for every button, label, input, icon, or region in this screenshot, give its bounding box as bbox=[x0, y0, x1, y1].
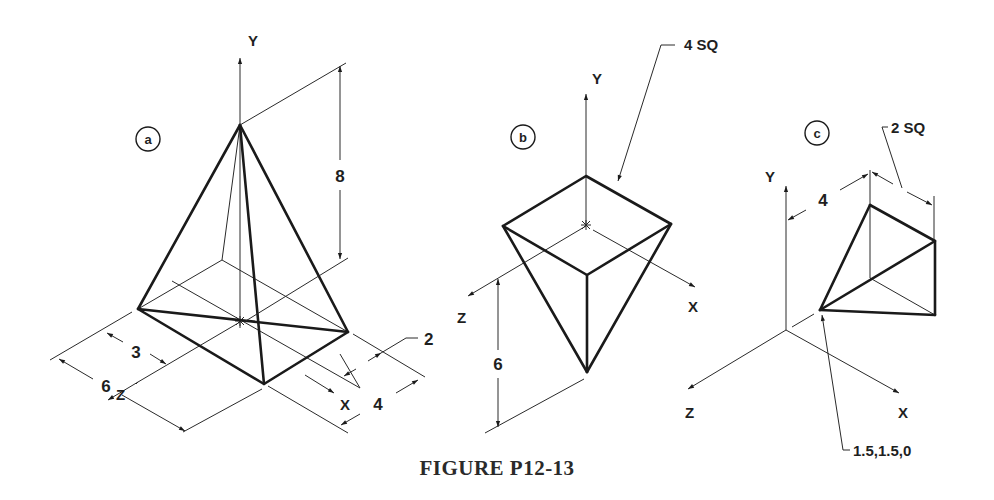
extension-line-bottom bbox=[244, 258, 348, 322]
view-b-label-badge: b bbox=[511, 125, 535, 149]
x-axis-label: X bbox=[688, 298, 698, 315]
view-c-label-badge: c bbox=[805, 121, 829, 145]
extension-line-bottom bbox=[485, 379, 584, 433]
pyramid-edge-bottom bbox=[820, 310, 935, 315]
view-a-label-badge: a bbox=[136, 127, 160, 151]
extension-line-z-front bbox=[183, 389, 262, 432]
x-axis-label: X bbox=[340, 396, 350, 413]
extension-line-z-left bbox=[50, 312, 132, 360]
base-note: 2 SQ bbox=[891, 119, 926, 136]
base-note: 4 SQ bbox=[684, 36, 719, 53]
leader-line-base-note bbox=[618, 45, 675, 181]
view-c: c Y Z X 4 2 SQ 1.5,1.5,0 bbox=[685, 119, 935, 459]
figure-canvas: a Y Z X 8 bbox=[0, 0, 994, 500]
x-axis-label: X bbox=[898, 404, 908, 421]
z-axis-line bbox=[468, 226, 586, 296]
y-axis-label: Y bbox=[765, 168, 775, 185]
z-axis-line bbox=[136, 322, 240, 384]
y-axis-label: Y bbox=[592, 70, 602, 87]
view-a: a Y Z X 8 bbox=[50, 32, 433, 433]
leader-line-base-note bbox=[882, 127, 902, 188]
extension-line-top bbox=[240, 63, 346, 125]
hidden-edge-back bbox=[222, 125, 240, 260]
y-axis-label: Y bbox=[248, 32, 258, 49]
dimension-offset: 4 bbox=[818, 191, 828, 210]
x-axis-line bbox=[786, 330, 899, 393]
z-axis-line bbox=[688, 330, 786, 389]
leader-line-apex-point bbox=[822, 315, 850, 450]
x-axis-line bbox=[593, 230, 695, 287]
dimension-height: 8 bbox=[335, 167, 344, 186]
base-hidden-edge bbox=[870, 278, 935, 315]
x-axis-arrow bbox=[305, 375, 334, 393]
view-b-label: b bbox=[519, 130, 527, 145]
view-a-label: a bbox=[144, 132, 152, 147]
extension-line-x-front bbox=[268, 386, 348, 433]
pyramid-edge-left bbox=[138, 125, 240, 309]
leader-line-x-offset bbox=[381, 338, 418, 353]
x-axis-line bbox=[172, 281, 360, 388]
pyramid-base-front bbox=[138, 309, 348, 384]
view-c-label: c bbox=[813, 126, 820, 141]
z-axis-label: Z bbox=[116, 386, 125, 403]
figure-caption: FIGURE P12-13 bbox=[419, 456, 574, 480]
z-axis-label: Z bbox=[457, 309, 466, 326]
center-marker bbox=[581, 220, 591, 230]
dimension-z-width: 6 bbox=[101, 377, 110, 396]
apex-point-note: 1.5,1.5,0 bbox=[853, 442, 911, 459]
dimension-x-offset: 2 bbox=[424, 330, 433, 349]
dimension-x-width: 4 bbox=[373, 395, 383, 414]
z-axis-label: Z bbox=[685, 404, 694, 421]
extension-line-x-right bbox=[353, 334, 425, 377]
dimension-z-offset: 3 bbox=[131, 343, 140, 362]
pyramid-edge-left bbox=[503, 226, 587, 372]
dimension-depth: 6 bbox=[493, 355, 502, 374]
view-b: b Y Z X 4 SQ 6 bbox=[457, 36, 719, 433]
pyramid-edge-right bbox=[587, 224, 671, 372]
